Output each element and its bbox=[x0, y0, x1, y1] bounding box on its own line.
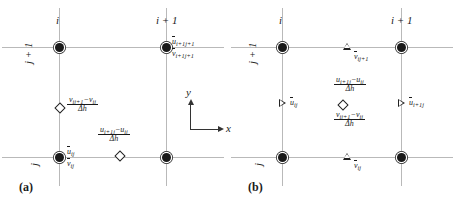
node-top-left bbox=[278, 43, 287, 52]
fraction-numerator: ui+1j−uij bbox=[98, 126, 130, 134]
fraction-numerator: vij+1−vij bbox=[334, 111, 365, 119]
node-label-v-i-plus-1-j-plus-1: vi+1j+1 bbox=[172, 49, 194, 58]
fraction-du-dx: ui+1j−uij Δh bbox=[98, 126, 130, 144]
node-label-u-ij: uij bbox=[67, 147, 75, 156]
node-bottom-left bbox=[278, 153, 287, 162]
node-top-left bbox=[55, 43, 64, 52]
face-label-v-ij-plus-1: vij+1 bbox=[354, 52, 368, 61]
face-label-u-ij: uij bbox=[290, 98, 298, 107]
fraction-denominator: Δh bbox=[67, 104, 98, 113]
fraction-numerator: vij+1−vij bbox=[67, 96, 98, 104]
v-subscript: ij bbox=[358, 164, 362, 171]
v-subscript: ij+1 bbox=[358, 55, 369, 62]
sub-ij-plus-1: ij+1 bbox=[73, 98, 84, 105]
sub-i-plus-1j: i+1j bbox=[340, 78, 351, 85]
panel-caption-a: (a) bbox=[19, 180, 33, 195]
triangle-right-marker-u-left-face bbox=[279, 99, 286, 107]
panel-a: i i + 1 j + 1 j ui+1j+1 vi+1j+1 uij vij … bbox=[0, 0, 228, 205]
fraction-denominator: Δh bbox=[98, 134, 130, 143]
node-top-right bbox=[397, 43, 406, 52]
sub-ij: ij bbox=[124, 128, 128, 135]
u-subscript: ij bbox=[71, 150, 75, 157]
diamond-marker-du-dx bbox=[114, 150, 125, 161]
face-label-u-i-plus-1j: ui+1j bbox=[409, 98, 424, 107]
diamond-marker-center bbox=[337, 99, 348, 110]
sub-ij-plus-1: ij+1 bbox=[340, 113, 351, 120]
row-label-j: j bbox=[252, 163, 264, 166]
sub-ij: ij bbox=[359, 113, 363, 120]
x-axis-line bbox=[190, 129, 220, 130]
y-axis-arrow bbox=[188, 99, 194, 105]
fraction-du-dx: ui+1j−uij Δh bbox=[334, 76, 366, 94]
fraction-dv-dy: vij+1−vij Δh bbox=[334, 111, 365, 129]
v-subscript: ij bbox=[71, 162, 75, 169]
sub-ij: ij bbox=[360, 78, 364, 85]
diamond-marker-dv-dy bbox=[54, 102, 65, 113]
u-subscript: i+1j bbox=[413, 101, 424, 108]
gridline-horizontal-j bbox=[231, 157, 453, 158]
row-label-j-plus-1: j + 1 bbox=[246, 43, 258, 64]
node-bottom-left bbox=[55, 153, 64, 162]
node-label-u-i-plus-1-j-plus-1: ui+1j+1 bbox=[172, 37, 194, 46]
node-label-v-ij: vij bbox=[67, 159, 74, 168]
sub-ij: ij bbox=[92, 98, 96, 105]
triangle-up-marker-v-top-face bbox=[343, 43, 351, 50]
x-axis-arrow bbox=[218, 126, 224, 132]
node-bottom-right bbox=[162, 153, 171, 162]
row-label-j-plus-1: j + 1 bbox=[22, 43, 34, 64]
column-label-i: i bbox=[56, 14, 59, 26]
triangle-right-marker-u-right-face bbox=[398, 99, 405, 107]
fraction-denominator: Δh bbox=[334, 119, 365, 128]
gridline-horizontal-j bbox=[2, 157, 224, 158]
fraction-numerator: ui+1j−uij bbox=[334, 76, 366, 84]
panel-caption-b: (b) bbox=[248, 180, 263, 195]
column-label-i-plus-1: i + 1 bbox=[156, 14, 177, 26]
u-subscript: ij bbox=[294, 101, 298, 108]
sub-i-plus-1j: i+1j bbox=[104, 128, 115, 135]
node-top-right bbox=[162, 43, 171, 52]
y-axis-label: y bbox=[186, 86, 191, 98]
u-subscript: i+1j+1 bbox=[176, 40, 194, 47]
v-subscript: i+1j+1 bbox=[176, 52, 194, 59]
figure-root: i i + 1 j + 1 j ui+1j+1 vi+1j+1 uij vij … bbox=[0, 0, 457, 205]
face-label-v-ij: vij bbox=[354, 161, 361, 170]
fraction-dv-dy: vij+1−vij Δh bbox=[67, 96, 98, 114]
y-axis-line bbox=[190, 104, 191, 129]
column-label-i-plus-1: i + 1 bbox=[391, 14, 412, 26]
fraction-denominator: Δh bbox=[334, 84, 366, 93]
gridline-horizontal-j-plus-1 bbox=[2, 47, 224, 48]
gridline-horizontal-j-plus-1 bbox=[231, 47, 453, 48]
column-label-i: i bbox=[279, 14, 282, 26]
triangle-up-marker-v-bottom-face bbox=[343, 153, 351, 160]
node-bottom-right bbox=[397, 153, 406, 162]
row-label-j: j bbox=[28, 163, 40, 166]
panel-b: i i + 1 j + 1 j vij+1 vij uij ui+1j bbox=[229, 0, 457, 205]
